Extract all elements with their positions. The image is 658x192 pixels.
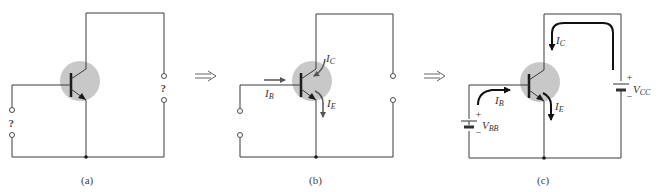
base-supply-minus: − (475, 127, 482, 138)
input-unknown-label: ? (9, 117, 15, 129)
input-terminal-bottom (10, 133, 15, 138)
base-supply-plus: + (475, 109, 482, 120)
transition-arrow-icon (195, 71, 216, 81)
panel-a-caption: (a) (81, 174, 94, 187)
output-terminal-top (162, 74, 167, 79)
base-supply-label: VBB (482, 119, 499, 133)
panel-a: ? ? (a) (9, 13, 167, 187)
panel-b: IB IC IE (b) (238, 14, 396, 187)
output-terminal-top (391, 74, 396, 79)
transistor-configuration-diagram: ? ? (a) IB IC IE (b) (0, 0, 658, 192)
junction-dot (542, 156, 546, 160)
base-current-arrow-icon (478, 90, 510, 105)
panel-b-caption: (b) (309, 174, 322, 187)
collector-lead (301, 14, 393, 79)
base-current-label: IB (494, 94, 504, 108)
collector-current-label: IC (555, 34, 566, 48)
junction-dot (314, 155, 318, 159)
panel-c: + − VBB + − VCC IC IB IE (c) (461, 14, 651, 187)
base-current-label: IB (264, 87, 274, 101)
collector-supply-plus: + (626, 72, 633, 83)
junction-dot (84, 155, 88, 159)
collector-current-label: IC (325, 52, 336, 66)
output-terminal-bottom (391, 98, 396, 103)
collector-lead (71, 13, 164, 79)
transition-arrow-icon (424, 71, 445, 81)
ground-wire (12, 103, 164, 157)
input-terminal-top (10, 108, 15, 113)
input-terminal-bottom (238, 133, 243, 138)
emitter-current-label: IE (554, 100, 564, 114)
input-terminal-top (238, 109, 243, 114)
output-unknown-label: ? (161, 82, 167, 94)
collector-supply-label: VCC (633, 83, 651, 97)
collector-supply-minus: − (626, 91, 633, 102)
panel-c-caption: (c) (537, 174, 550, 187)
emitter-current-label: IE (326, 97, 336, 111)
output-terminal-bottom (162, 98, 167, 103)
